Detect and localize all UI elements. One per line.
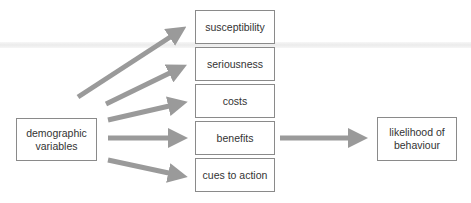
factor-box-benefits: benefits: [195, 121, 275, 155]
likelihood-of-behaviour-box: likelihood of behaviour: [377, 117, 457, 161]
outcome-label-line2: behaviour: [389, 139, 444, 152]
factor-label: benefits: [217, 132, 254, 145]
arrow-to-susceptibility: [78, 32, 178, 97]
source-label-line1: demographic: [26, 127, 87, 140]
factor-box-cues-to-action: cues to action: [195, 158, 275, 192]
arrow-to-cues: [108, 160, 178, 175]
source-label-line2: variables: [26, 140, 87, 153]
factor-label: costs: [223, 95, 248, 108]
factor-label: susceptibility: [205, 21, 265, 34]
factor-label: cues to action: [203, 169, 268, 182]
factor-label: seriousness: [207, 58, 263, 71]
factor-box-costs: costs: [195, 84, 275, 118]
factor-box-susceptibility: susceptibility: [195, 10, 275, 44]
arrow-to-costs: [108, 104, 178, 120]
outcome-label-line1: likelihood of: [389, 126, 444, 139]
demographic-variables-box: demographic variables: [16, 118, 97, 161]
factor-box-seriousness: seriousness: [195, 47, 275, 81]
